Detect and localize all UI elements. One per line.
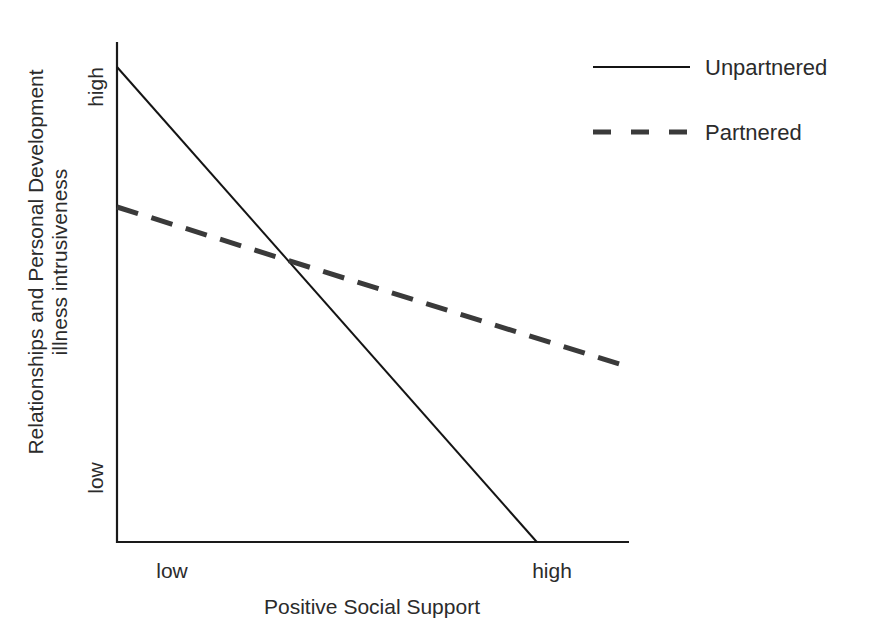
x-axis-title: Positive Social Support [264,595,480,618]
series-partnered-line [117,207,629,367]
x-tick-low: low [156,559,188,582]
legend: Unpartnered Partnered [593,55,827,145]
interaction-line-chart: high low Relationships and Personal Deve… [0,0,869,637]
y-axis-title-line1: Relationships and Personal Development [24,69,47,454]
legend-item-partnered: Partnered [593,120,802,145]
y-tick-high: high [84,67,107,107]
series-unpartnered-line [117,67,537,542]
y-axis-title-line2: illness intrusiveness [48,169,71,356]
x-tick-high: high [532,559,572,582]
y-tick-low: low [84,461,107,493]
legend-label-partnered: Partnered [705,120,802,145]
legend-label-unpartnered: Unpartnered [705,55,827,80]
legend-item-unpartnered: Unpartnered [593,55,827,80]
